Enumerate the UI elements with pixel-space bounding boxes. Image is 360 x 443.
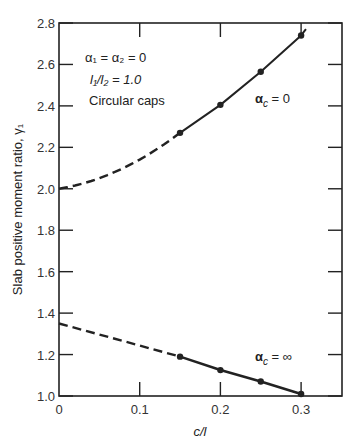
y-tick-label: 2.8 — [37, 16, 55, 31]
series-label-alpha-c-0: αc = 0 — [255, 91, 290, 109]
x-tick-label: 0.3 — [292, 402, 310, 417]
data-point — [258, 68, 264, 74]
chart: 1.01.21.41.61.82.02.22.42.62.800.10.20.3… — [0, 0, 360, 443]
y-axis-label: Slab positive moment ratio, γ₁ — [10, 123, 25, 295]
y-tick-label: 1.4 — [37, 306, 55, 321]
dashed-extrapolation — [59, 133, 180, 189]
data-point — [177, 130, 183, 136]
y-tick-label: 1.6 — [37, 265, 55, 280]
data-point — [298, 391, 304, 397]
y-tick-label: 2.6 — [37, 57, 55, 72]
y-tick-label: 2.4 — [37, 99, 55, 114]
annotation-alpha: α₁ = α₂ = 0 — [85, 50, 146, 65]
x-tick-label: 0.2 — [211, 402, 229, 417]
x-axis-label: c/l — [194, 424, 208, 439]
y-tick-label: 1.8 — [37, 223, 55, 238]
data-point — [217, 102, 223, 108]
data-point — [177, 353, 183, 359]
y-tick-label: 2.2 — [37, 140, 55, 155]
annotation-caps: Circular caps — [89, 93, 165, 108]
x-tick-label: 0.1 — [131, 402, 149, 417]
dashed-extrapolation — [59, 323, 180, 356]
data-point — [217, 367, 223, 373]
y-tick-label: 1.2 — [37, 348, 55, 363]
y-tick-label: 1.0 — [37, 389, 55, 404]
y-tick-label: 2.0 — [37, 182, 55, 197]
series-line — [180, 29, 306, 133]
series-label-alpha-c-inf: αc = ∞ — [255, 349, 292, 367]
annotation-span-ratio: l₁/l₂ = 1.0 — [90, 72, 142, 87]
x-tick-label: 0 — [55, 402, 62, 417]
data-point — [298, 32, 304, 38]
data-point — [258, 378, 264, 384]
